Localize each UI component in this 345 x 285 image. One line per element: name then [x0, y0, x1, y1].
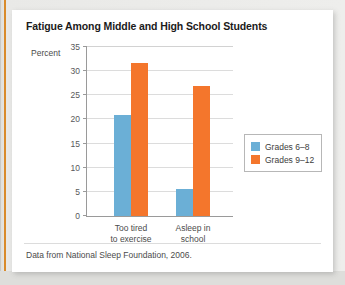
y-axis-tick-label: 0 — [75, 211, 80, 221]
legend-color-swatch — [251, 142, 260, 151]
bar — [114, 115, 131, 216]
legend-item: Grades 6–8 — [251, 140, 314, 153]
source-note: Data from National Sleep Foundation, 200… — [26, 250, 192, 260]
x-axis-group-label: Asleep inschool — [176, 223, 211, 245]
legend-label: Grades 6–8 — [265, 142, 309, 152]
bar — [176, 189, 193, 216]
page-edge-line — [0, 0, 1, 285]
y-axis-tick-label: 30 — [71, 66, 80, 76]
x-axis-group-label: Too tiredto exercise — [110, 223, 151, 245]
y-axis-tick — [83, 215, 87, 216]
gridline — [87, 70, 233, 71]
y-axis-tick-label: 10 — [71, 163, 80, 173]
gridline — [87, 191, 233, 192]
y-axis-tick — [83, 118, 87, 119]
y-axis-tick — [83, 167, 87, 168]
y-axis-tick-label: 15 — [71, 139, 80, 149]
bar — [193, 86, 210, 216]
y-axis-tick-label: 20 — [71, 114, 80, 124]
gridline — [87, 46, 233, 47]
y-axis-tick — [83, 46, 87, 47]
bar — [131, 63, 148, 216]
y-axis-tick — [83, 70, 87, 71]
chart-title: Fatigue Among Middle and High School Stu… — [26, 20, 267, 32]
gridline — [87, 143, 233, 144]
plot-area: 05101520253035 Too tiredto exerciseAslee… — [86, 47, 233, 217]
y-axis-tick — [83, 143, 87, 144]
legend-label: Grades 9–12 — [265, 155, 314, 165]
y-axis-tick-label: 35 — [71, 42, 80, 52]
y-axis-tick — [83, 191, 87, 192]
legend-color-swatch — [251, 155, 260, 164]
y-axis-tick-label: 25 — [71, 90, 80, 100]
figure-card: Fatigue Among Middle and High School Stu… — [12, 10, 333, 272]
page-bottom-shade — [0, 271, 345, 285]
legend-item: Grades 9–12 — [251, 153, 314, 166]
y-axis-tick-label: 5 — [75, 187, 80, 197]
y-axis-title: Percent — [31, 48, 60, 58]
y-axis-tick — [83, 94, 87, 95]
gridline — [87, 118, 233, 119]
footnote-divider — [24, 243, 321, 244]
chart-legend: Grades 6–8Grades 9–12 — [244, 134, 322, 172]
x-axis-label-line: Asleep in — [176, 223, 211, 234]
x-axis-label-line: Too tired — [110, 223, 151, 234]
page-accent-rule — [4, 0, 6, 285]
gridline — [87, 167, 233, 168]
gridline — [87, 94, 233, 95]
